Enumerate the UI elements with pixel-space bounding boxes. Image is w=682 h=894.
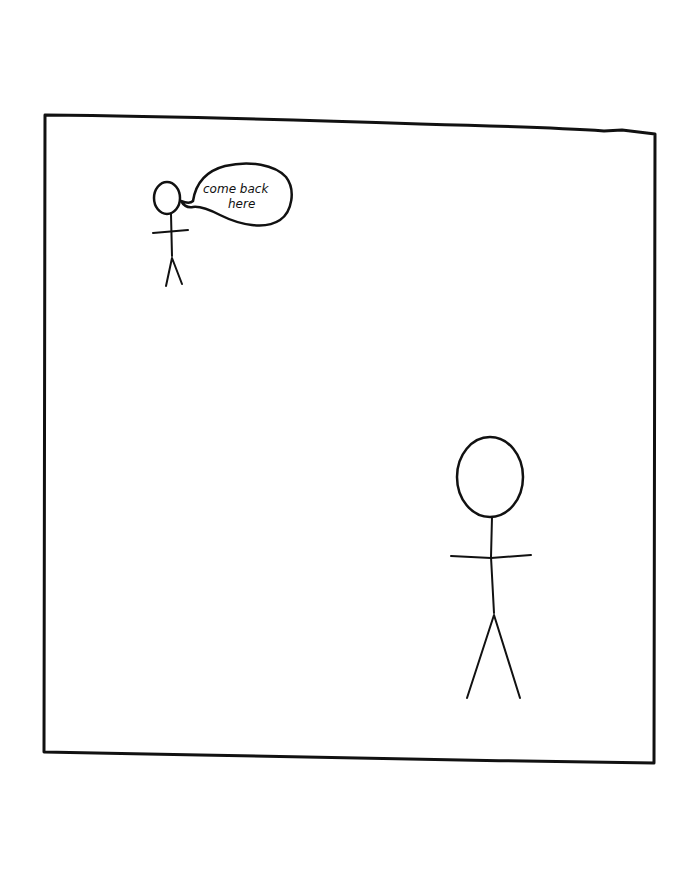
large-figure-legs	[467, 615, 520, 698]
speech-bubble-line-1: come back	[203, 182, 269, 196]
comic-drawing: come back here	[0, 0, 682, 894]
large-figure-head	[457, 437, 523, 517]
large-figure-body	[491, 517, 494, 613]
panel-border	[44, 115, 655, 763]
small-stick-figure	[153, 182, 188, 286]
speech-bubble-line-2: here	[228, 197, 255, 211]
small-figure-head	[154, 182, 180, 214]
small-figure-body	[171, 214, 172, 256]
speech-bubble: come back here	[181, 163, 292, 225]
small-figure-legs	[166, 258, 182, 286]
comic-page: come back here	[0, 0, 682, 894]
large-stick-figure	[451, 437, 531, 698]
